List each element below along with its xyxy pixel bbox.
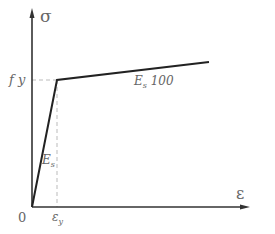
hardening-slope-label: Es 100 (134, 74, 174, 90)
stress-strain-curve (32, 62, 209, 207)
y-axis-label: σ (40, 6, 52, 26)
yield-strain-label: εy (52, 210, 63, 226)
origin-label: 0 (18, 210, 26, 225)
y-axis-arrow-icon (30, 8, 35, 18)
x-axis-label: ε (236, 184, 244, 203)
yield-stress-label: f y (9, 72, 25, 87)
elastic-modulus-label: Es (42, 153, 55, 169)
diagram-graphics (0, 0, 275, 234)
x-axis-arrow-icon (240, 205, 250, 210)
stress-strain-diagram: σ ε 0 f y εy Es Es 100 (0, 0, 275, 234)
